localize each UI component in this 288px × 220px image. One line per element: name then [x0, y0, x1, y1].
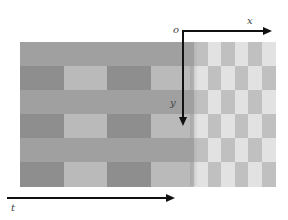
- coarse-cell: [107, 90, 151, 115]
- fine-cell: [208, 90, 222, 115]
- transition-band: [190, 42, 198, 186]
- fine-cell: [221, 114, 235, 139]
- fine-cell: [248, 162, 262, 187]
- fine-cell: [235, 114, 249, 139]
- x-axis-label: x: [247, 16, 253, 26]
- fine-cell: [221, 162, 235, 187]
- coarse-cell: [151, 162, 195, 187]
- fine-cell: [221, 66, 235, 91]
- coarse-cell: [64, 114, 108, 139]
- fine-cell: [221, 42, 235, 67]
- coarse-cell: [64, 42, 108, 67]
- coarse-cell: [20, 42, 64, 67]
- x-axis-line: [182, 30, 266, 32]
- fine-cell: [262, 42, 276, 67]
- fine-cell: [262, 90, 276, 115]
- fine-cell: [235, 162, 249, 187]
- coarse-cell: [107, 42, 151, 67]
- fine-cell: [262, 114, 276, 139]
- fine-cell: [248, 138, 262, 163]
- y-axis-arrow-icon: [179, 117, 187, 126]
- coarse-cell: [20, 66, 64, 91]
- coarse-cell: [107, 66, 151, 91]
- coarse-cell: [107, 114, 151, 139]
- t-axis-label: t: [11, 203, 15, 213]
- y-axis-label: y: [170, 98, 176, 108]
- fine-cell: [248, 42, 262, 67]
- fine-cell: [208, 42, 222, 67]
- fine-cell: [235, 66, 249, 91]
- coarse-cell: [20, 138, 64, 163]
- coarse-cell: [64, 138, 108, 163]
- coarse-cell: [151, 114, 195, 139]
- fine-cell: [262, 66, 276, 91]
- fine-cell: [235, 138, 249, 163]
- fine-cell: [235, 90, 249, 115]
- fine-cell: [235, 42, 249, 67]
- fine-cell: [221, 90, 235, 115]
- coarse-cell: [107, 162, 151, 187]
- fine-cell: [248, 90, 262, 115]
- coarse-cell: [20, 162, 64, 187]
- coarse-cell: [64, 66, 108, 91]
- coarse-cell: [151, 66, 195, 91]
- fine-cell: [262, 162, 276, 187]
- coarse-cell: [151, 42, 195, 67]
- coarse-cell: [20, 114, 64, 139]
- fine-cell: [208, 114, 222, 139]
- origin-label: o: [173, 25, 179, 35]
- fine-cell: [208, 66, 222, 91]
- fine-cell: [208, 162, 222, 187]
- fine-cell: [262, 138, 276, 163]
- coarse-cell: [20, 90, 64, 115]
- y-axis-line: [182, 30, 184, 120]
- coarse-cell: [107, 138, 151, 163]
- fine-cell: [248, 114, 262, 139]
- coarse-cell: [64, 90, 108, 115]
- fine-cell: [248, 66, 262, 91]
- x-axis-arrow-icon: [263, 27, 272, 35]
- t-axis-arrow-icon: [166, 194, 175, 202]
- coarse-cell: [151, 138, 195, 163]
- checkerboard-grid: [20, 42, 275, 186]
- fine-cell: [208, 138, 222, 163]
- fine-cell: [221, 138, 235, 163]
- t-axis-line: [7, 197, 169, 199]
- coarse-cell: [64, 162, 108, 187]
